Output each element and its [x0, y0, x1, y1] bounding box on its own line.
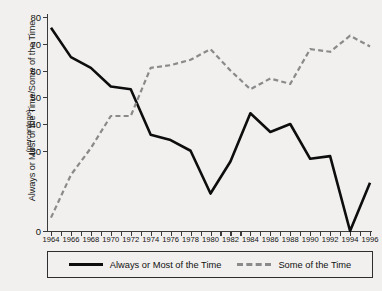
x-tick-label: 1982 — [222, 235, 239, 244]
y-tick-label: 50 — [30, 92, 41, 103]
chart-legend: Always or Most of the TimeSome of the Ti… — [47, 251, 373, 278]
x-tick-label: 1966 — [62, 235, 79, 244]
y-tick-label: 30 — [30, 145, 41, 156]
x-tick-label: 1996 — [362, 235, 379, 244]
x-tick-label: 1994 — [342, 235, 359, 244]
legend-dashed-line-icon — [237, 263, 271, 266]
x-tick-label: 1964 — [43, 235, 60, 244]
legend-label: Some of the Time — [278, 260, 351, 270]
x-tick-label: 1978 — [182, 235, 199, 244]
y-tick-label: 0 — [36, 226, 41, 237]
x-tick-label: 1974 — [142, 235, 159, 244]
x-tick-label: 1980 — [202, 235, 219, 244]
y-axis-subtitle: (percentage) — [21, 71, 35, 191]
x-tick-label: 1990 — [302, 235, 319, 244]
legend-item: Always or Most of the Time — [69, 260, 222, 270]
x-tick-label: 1992 — [322, 235, 339, 244]
chart-figure: Always or Most of the Time/Some of the T… — [0, 0, 382, 291]
plot-area: 0304050607080 19641966196819701972197419… — [47, 14, 372, 232]
y-tick-label: 40 — [30, 119, 41, 130]
legend-label: Always or Most of the Time — [110, 260, 222, 270]
series-line — [51, 28, 370, 231]
x-tick-label: 1984 — [242, 235, 259, 244]
x-tick-label: 1986 — [262, 235, 279, 244]
x-tick-label: 1988 — [282, 235, 299, 244]
x-tick-label: 1968 — [82, 235, 99, 244]
x-tick-label: 1976 — [162, 235, 179, 244]
x-tick-label: 1972 — [122, 235, 139, 244]
y-tick-label: 60 — [30, 65, 41, 76]
y-tick-label: 80 — [30, 12, 41, 23]
y-tick-label: 70 — [30, 38, 41, 49]
series-line — [51, 36, 370, 218]
legend-item: Some of the Time — [237, 260, 351, 270]
x-tick-label: 1970 — [102, 235, 119, 244]
y-axis-title: Always or Most of the Time/Some of the T… — [24, 1, 40, 221]
series-lines — [47, 14, 372, 232]
legend-solid-line-icon — [69, 263, 103, 266]
